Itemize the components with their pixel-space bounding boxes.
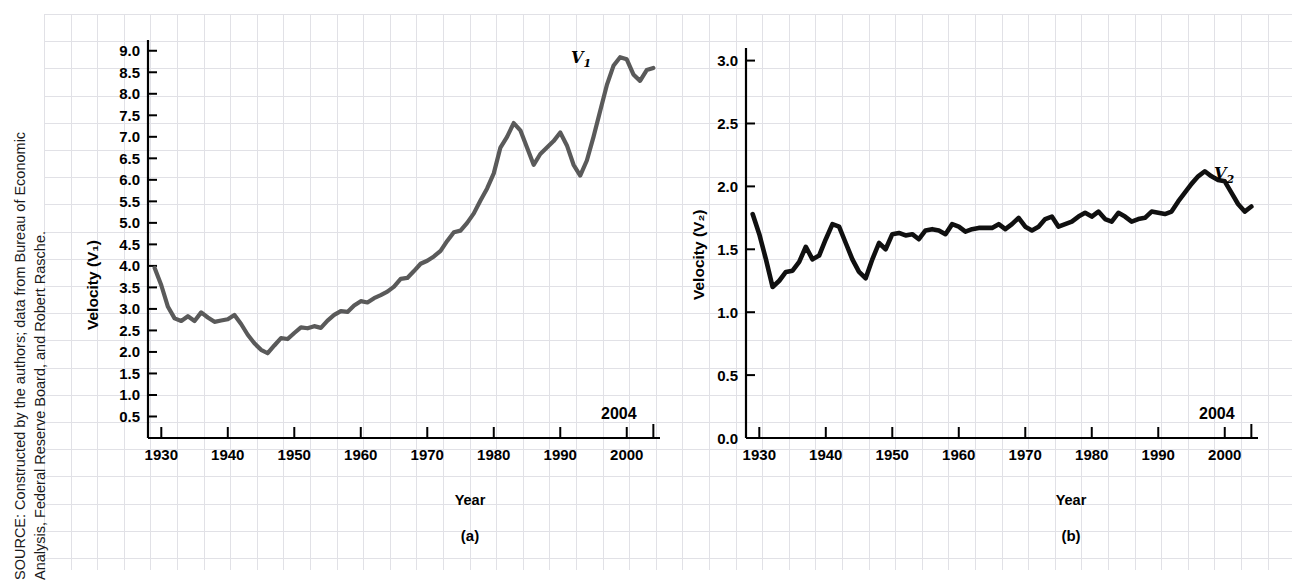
y-tick-label: 3.0 (119, 300, 140, 317)
y-tick-label: 9.0 (119, 42, 140, 59)
x-tick-label: 2000 (610, 446, 643, 463)
x-tick-label: 1990 (544, 446, 577, 463)
x-tick-label: 1970 (411, 446, 444, 463)
figure-page: SOURCE: Constructed by the authors; data… (0, 0, 1296, 582)
y-tick-label: 4.0 (119, 257, 140, 274)
end-year-label-b: 2004 (1199, 405, 1235, 423)
y-tick-label: 1.5 (717, 241, 738, 258)
chart-panel-a: 0.51.01.52.02.53.03.54.04.55.05.56.06.57… (60, 0, 680, 582)
y-tick-label: 1.0 (717, 304, 738, 321)
y-tick-label: 0.0 (717, 430, 738, 447)
x-tick-label: 1940 (809, 446, 842, 463)
x-tick-label: 1950 (278, 446, 311, 463)
x-tick-label: 1950 (876, 446, 909, 463)
series-tag-v1: V1 (571, 48, 591, 70)
y-tick-label: 8.0 (119, 85, 140, 102)
y-tick-label: 2.0 (717, 178, 738, 195)
x-axis-label-a: Year (340, 492, 600, 508)
y-tick-label: 0.5 (119, 408, 140, 425)
y-axis-label-b: Velocity (V₂) (690, 210, 708, 300)
y-tick-label: 1.0 (119, 386, 140, 403)
panel-caption-a: (a) (390, 527, 550, 544)
y-tick-label: 2.0 (119, 343, 140, 360)
x-tick-label: 1990 (1142, 446, 1175, 463)
x-tick-label: 2000 (1208, 446, 1241, 463)
panel-caption-b: (b) (991, 527, 1151, 544)
y-tick-label: 2.5 (717, 115, 738, 132)
y-tick-label: 5.0 (119, 214, 140, 231)
y-tick-label: 6.0 (119, 171, 140, 188)
y-tick-label: 0.5 (717, 367, 738, 384)
x-axis-label-b: Year (941, 492, 1201, 508)
x-tick-label: 1980 (477, 446, 510, 463)
y-tick-label: 5.5 (119, 193, 140, 210)
y-tick-label: 7.0 (119, 128, 140, 145)
series-tag-v2: V2 (1214, 164, 1234, 186)
y-tick-label: 7.5 (119, 107, 140, 124)
x-tick-label: 1980 (1075, 446, 1108, 463)
y-tick-label: 1.5 (119, 365, 140, 382)
source-note: SOURCE: Constructed by the authors; data… (10, 4, 50, 580)
x-tick-label: 1960 (942, 446, 975, 463)
y-tick-label: 2.5 (119, 322, 140, 339)
x-tick-label: 1930 (145, 446, 178, 463)
y-tick-label: 3.5 (119, 279, 140, 296)
y-tick-label: 4.5 (119, 236, 140, 253)
x-tick-label: 1970 (1009, 446, 1042, 463)
data-line (155, 57, 654, 353)
y-tick-label: 3.0 (717, 52, 738, 69)
chart-panel-b: 0.00.51.01.52.02.53.01930194019501960197… (676, 0, 1296, 582)
x-tick-label: 1960 (344, 446, 377, 463)
end-year-label-a: 2004 (601, 405, 637, 423)
x-tick-label: 1940 (211, 446, 244, 463)
y-tick-label: 6.5 (119, 150, 140, 167)
y-axis-label-a: Velocity (V₁) (84, 240, 102, 330)
x-tick-label: 1930 (743, 446, 776, 463)
y-tick-label: 8.5 (119, 64, 140, 81)
data-line (753, 171, 1252, 287)
